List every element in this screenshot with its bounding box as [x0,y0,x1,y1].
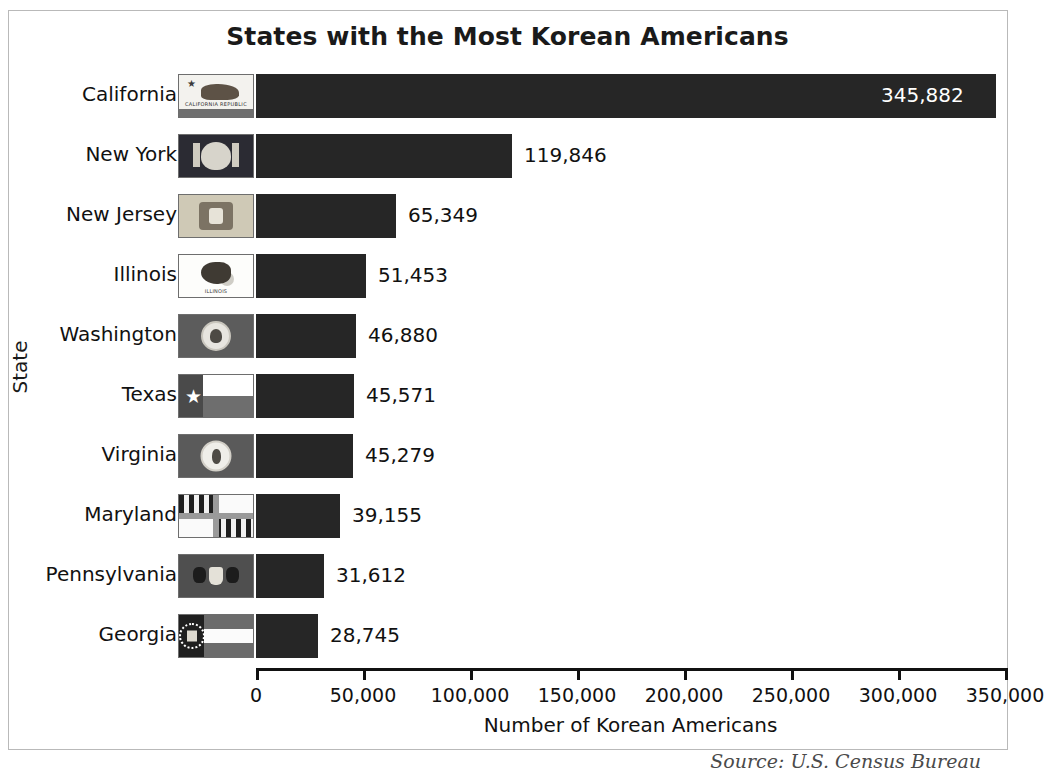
x-axis-tick-label: 100,000 [431,684,510,706]
bar-row: Washington46,880 [0,312,1015,360]
california-flag-icon: ★CALIFORNIA REPUBLIC [178,74,254,118]
state-label: Georgia [99,622,177,646]
state-label: New Jersey [66,202,177,226]
x-axis-tick [1005,668,1008,680]
x-axis-line [256,668,1005,671]
bar-value-label: 119,846 [524,143,607,167]
bar-value-label: 39,155 [352,503,422,527]
x-axis-tick-label: 150,000 [538,684,617,706]
bar-row: California★CALIFORNIA REPUBLIC345,882 [0,72,1015,120]
pennsylvania-flag-icon [178,554,254,598]
bar-row: Pennsylvania31,612 [0,552,1015,600]
bar [256,134,512,178]
x-axis-tick [363,668,366,680]
x-axis-tick [898,668,901,680]
x-axis-tick [577,668,580,680]
new-jersey-flag-icon [178,194,254,238]
bar [256,494,340,538]
bar-row: Virginia45,279 [0,432,1015,480]
x-axis-tick-label: 300,000 [859,684,938,706]
bar-row: Georgia28,745 [0,612,1015,660]
bar [256,194,396,238]
bar-value-label: 45,571 [366,383,436,407]
bar [256,314,356,358]
bar-value-label: 51,453 [378,263,448,287]
bar-value-label: 345,882 [881,83,964,107]
bar [256,434,353,478]
x-axis-tick [791,668,794,680]
x-axis-tick [256,668,259,680]
bar-row: New Jersey65,349 [0,192,1015,240]
source-note: Source: U.S. Census Bureau [0,750,1015,772]
state-label: Washington [59,322,177,346]
state-label: Maryland [84,502,177,526]
state-label: Texas [122,382,177,406]
state-label: New York [85,142,177,166]
x-axis-title: Number of Korean Americans [256,713,1005,737]
x-axis-tick [684,668,687,680]
bar-value-label: 28,745 [330,623,400,647]
bar-value-label: 46,880 [368,323,438,347]
x-axis-tick [470,668,473,680]
state-label: Illinois [114,262,177,286]
state-label: California [82,82,177,106]
bar-value-label: 31,612 [336,563,406,587]
new-york-flag-icon [178,134,254,178]
x-axis-tick-label: 350,000 [966,684,1044,706]
x-axis-tick-label: 200,000 [645,684,724,706]
virginia-flag-icon [178,434,254,478]
x-axis-tick-label: 0 [250,684,262,706]
x-axis-tick-label: 50,000 [330,684,396,706]
bar-value-label: 45,279 [365,443,435,467]
bar [256,374,354,418]
bar [256,614,318,658]
texas-flag-icon: ★ [178,374,254,418]
bar-row: Maryland39,155 [0,492,1015,540]
x-axis-tick-label: 250,000 [752,684,831,706]
bar [256,254,366,298]
georgia-flag-icon [178,614,254,658]
state-label: Pennsylvania [46,562,177,586]
state-label: Virginia [102,442,177,466]
bar [256,554,324,598]
illinois-flag-icon: ILLINOIS [178,254,254,298]
maryland-flag-icon [178,494,254,538]
bar-row: Texas★45,571 [0,372,1015,420]
washington-flag-icon [178,314,254,358]
bar-row: IllinoisILLINOIS51,453 [0,252,1015,300]
bar-row: New York119,846 [0,132,1015,180]
bar-value-label: 65,349 [408,203,478,227]
